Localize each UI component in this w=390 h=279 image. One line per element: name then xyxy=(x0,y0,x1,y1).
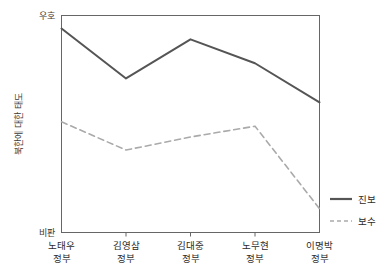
y-axis-top-label: 우호 xyxy=(39,11,55,21)
x-axis-label: 정부 xyxy=(246,253,264,264)
line-chart: 우호 비판 북한에 대한 태도 노태우정부김영삼정부김대중정부노무현정부이명박정… xyxy=(0,0,390,279)
series-line-progressive xyxy=(62,29,320,103)
chart-legend: 진보보수 xyxy=(330,194,376,227)
y-axis-title: 북한에 대한 태도 xyxy=(14,93,24,155)
chart-container: 우호 비판 북한에 대한 태도 노태우정부김영삼정부김대중정부노무현정부이명박정… xyxy=(0,0,390,279)
legend-label: 진보 xyxy=(358,194,376,205)
x-axis-label: 정부 xyxy=(53,253,71,264)
y-axis-bottom-label: 비판 xyxy=(39,228,55,238)
x-axis-label: 노태우 xyxy=(48,240,75,251)
x-axis-label: 이명박 xyxy=(306,240,333,251)
x-axis-label: 정부 xyxy=(311,253,329,264)
x-axis-labels: 노태우정부김영삼정부김대중정부노무현정부이명박정부 xyxy=(48,240,333,264)
x-axis-ticks xyxy=(126,233,255,237)
x-axis-label: 정부 xyxy=(117,253,135,264)
x-axis-label: 김대중 xyxy=(177,240,204,251)
x-axis-label: 노무현 xyxy=(242,240,269,251)
plot-frame xyxy=(62,16,320,233)
x-axis-label: 김영삼 xyxy=(113,240,140,251)
x-axis-label: 정부 xyxy=(182,253,200,264)
data-series-group xyxy=(62,29,320,209)
series-line-conservative xyxy=(62,122,320,209)
legend-label: 보수 xyxy=(358,216,376,227)
